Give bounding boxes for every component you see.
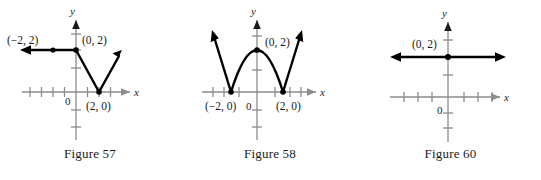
figure-caption-58: Figure 58 [180, 146, 360, 162]
figures-row: (−2, 2) (0, 2) (2, 0) 0 x y Figure 57 [0, 0, 541, 180]
x-axis-label: x [503, 91, 509, 103]
y-axis-label: y [250, 5, 256, 17]
point-marker-minus2-2 [50, 47, 55, 52]
y-axis-arrowhead [72, 20, 80, 29]
y-axis-arrowhead [444, 22, 452, 31]
right-arrowhead [495, 52, 506, 62]
figure-panel-60: (0, 2) 0 x y Figure 60 [360, 0, 541, 180]
y-axis-arrowhead [253, 20, 261, 29]
point-marker-0-2 [73, 47, 79, 53]
origin-label: 0 [246, 100, 252, 112]
point-label-2-0: (2, 0) [276, 100, 301, 113]
x-axis-arrowhead [121, 88, 130, 96]
y-axis-label: y [441, 7, 447, 19]
figure-caption-60: Figure 60 [360, 146, 541, 162]
figure-60-plot: (0, 2) 0 x y [360, 0, 541, 150]
figure-57-plot: (−2, 2) (0, 2) (2, 0) 0 x y [0, 0, 180, 150]
figure-panel-58: (−2, 0) (0, 2) (2, 0) 0 x y Figure 58 [180, 0, 360, 180]
left-ray-arrowhead [20, 45, 31, 55]
ascending-ray-segment [99, 56, 119, 92]
point-marker-0-2 [254, 47, 260, 53]
point-marker-2-0 [96, 89, 102, 95]
point-label-0-2: (0, 2) [82, 34, 107, 47]
x-axis-label: x [133, 86, 139, 98]
origin-label: 0 [437, 104, 443, 116]
figure-57-curve [27, 50, 119, 92]
point-label-minus2-0: (−2, 0) [205, 100, 237, 113]
origin-label: 0 [65, 95, 71, 107]
left-ray-segment [215, 40, 231, 92]
left-arrowhead [390, 52, 401, 62]
point-label-2-0: (2, 0) [86, 100, 111, 113]
point-label-0-2: (0, 2) [412, 38, 437, 51]
point-marker-0-2 [445, 54, 451, 60]
figure-panel-57: (−2, 2) (0, 2) (2, 0) 0 x y Figure 57 [0, 0, 180, 180]
point-label-minus2-2: (−2, 2) [7, 34, 39, 47]
descending-segment [76, 50, 99, 92]
y-axis-label: y [69, 5, 75, 17]
x-axis-arrowhead [307, 88, 316, 96]
figure-caption-57: Figure 57 [0, 146, 180, 162]
right-ray-arrowhead [113, 50, 123, 57]
figure-58-plot: (−2, 0) (0, 2) (2, 0) 0 x y [180, 0, 360, 150]
x-axis-label: x [319, 86, 325, 98]
point-marker-2-0 [280, 89, 286, 95]
point-marker-minus2-0 [228, 89, 234, 95]
point-label-0-2: (0, 2) [265, 36, 290, 49]
